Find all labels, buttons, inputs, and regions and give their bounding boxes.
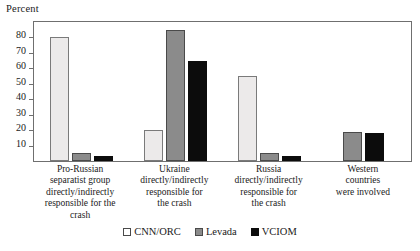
category-label-line: Russia	[223, 164, 315, 175]
bar-cnn-orc	[238, 76, 257, 161]
legend-label: CNN/ORC	[134, 226, 181, 237]
bar-levada	[166, 30, 185, 161]
category-label-line: were involved	[317, 187, 409, 198]
y-tick-label: 50	[16, 77, 26, 87]
legend-label: VCIOM	[262, 226, 297, 237]
bar-group	[128, 22, 222, 161]
y-axis-ticks: 1020304050607080	[0, 21, 33, 162]
bar-levada	[260, 153, 279, 161]
legend-swatch-icon	[195, 228, 203, 236]
y-tick-label: 40	[16, 92, 26, 102]
category-label: Russiadirectly/indirectlyresponsible for…	[223, 164, 315, 210]
bar-vciom	[365, 133, 384, 161]
y-tick-label: 20	[16, 123, 26, 133]
category-label-line: responsible for	[128, 187, 220, 198]
legend-swatch-icon	[123, 228, 131, 236]
category-labels: Pro-Russianseparatist groupdirectly/indi…	[33, 164, 412, 220]
category-label-line: the crash	[128, 198, 220, 209]
y-tick-label: 30	[16, 108, 26, 118]
legend-swatch-icon	[251, 228, 259, 236]
bar-group	[34, 22, 128, 161]
bar-cnn-orc	[50, 37, 69, 161]
category-label-line: Western	[317, 164, 409, 175]
category-label-line: separatist group	[34, 175, 126, 186]
category-label-line: the crash	[223, 198, 315, 209]
legend-label: Levada	[206, 226, 237, 237]
category-label-line: countries	[317, 175, 409, 186]
category-label: Westerncountrieswere involved	[317, 164, 409, 198]
bar-chart: Percent 1020304050607080 Pro-Russiansepa…	[0, 0, 420, 251]
category-label: Ukrainedirectly/indirectlyresponsible fo…	[128, 164, 220, 210]
category-label-line: responsible for the crash	[34, 198, 126, 221]
legend-item-cnn-orc[interactable]: CNN/ORC	[123, 226, 181, 237]
category-label-line: directly/indirectly	[223, 175, 315, 186]
y-tick-label: 10	[16, 139, 26, 149]
category-label-line: responsible for	[223, 187, 315, 198]
category-label-line: directly/indirectly	[34, 187, 126, 198]
category-label: Pro-Russianseparatist groupdirectly/indi…	[34, 164, 126, 221]
y-tick-label: 80	[16, 30, 26, 40]
y-axis-caption: Percent	[6, 3, 39, 14]
bar-group	[223, 22, 317, 161]
bar-group	[317, 22, 411, 161]
category-label-line: Ukraine	[128, 164, 220, 175]
category-label-line: directly/indirectly	[128, 175, 220, 186]
bar-vciom	[188, 61, 207, 161]
bar-vciom	[282, 156, 301, 161]
bar-cnn-orc	[144, 130, 163, 161]
y-tick-label: 60	[16, 61, 26, 71]
bars-layer	[34, 22, 411, 161]
legend-item-levada[interactable]: Levada	[195, 226, 237, 237]
legend-item-vciom[interactable]: VCIOM	[251, 226, 297, 237]
bar-vciom	[94, 156, 113, 161]
y-tick-label: 70	[16, 46, 26, 56]
bar-levada	[343, 132, 362, 161]
chart-legend: CNN/ORCLevadaVCIOM	[0, 226, 420, 237]
category-label-line: Pro-Russian	[34, 164, 126, 175]
bar-levada	[72, 153, 91, 161]
